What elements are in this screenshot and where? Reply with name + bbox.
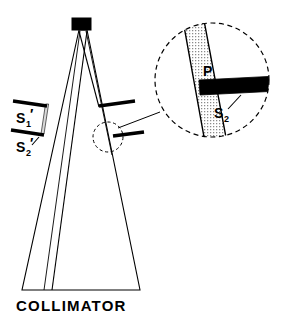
label-slit-1-prime-symbol: S [16, 110, 25, 126]
beam-sliver-left [41, 104, 49, 134]
label-inset-slit-2-subscript: 2 [224, 114, 229, 124]
figure-canvas: S 1 ′ S 2 ′ P [0, 0, 281, 320]
label-slit-1-prime: S 1 ′ [16, 106, 34, 129]
label-slit-2-prime-symbol: S [16, 139, 25, 155]
inset-detail: P S 2 [155, 15, 279, 148]
label-slit-2-prime: S 2 ′ [16, 135, 39, 158]
slit-bar-lower-left [11, 130, 44, 135]
slit-bar-upper-right [99, 101, 135, 106]
label-inset-plate: P [203, 63, 212, 79]
label-slit-1-prime-mark: ′ [30, 106, 34, 122]
collimator-figure: S 1 ′ S 2 ′ P [0, 0, 281, 320]
detail-leader [118, 112, 160, 128]
collimator-body [22, 30, 140, 290]
page-title: COLLIMATOR [16, 297, 127, 314]
slit-bar-lower-right [113, 132, 144, 136]
label-inset-slit-2-symbol: S [214, 105, 223, 121]
source-block [72, 18, 91, 30]
